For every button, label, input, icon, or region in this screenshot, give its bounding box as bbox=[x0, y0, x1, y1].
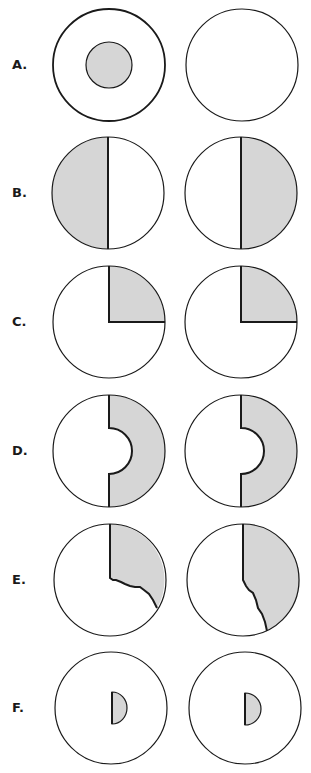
row-f-left-diagram bbox=[55, 652, 167, 764]
row-f-right-diagram bbox=[189, 652, 301, 764]
row-c-label: C. bbox=[12, 314, 26, 329]
row-a-label: A. bbox=[12, 57, 27, 72]
row-c-left-diagram bbox=[53, 266, 165, 378]
row-e-label: E. bbox=[12, 572, 26, 587]
row-b-label: B. bbox=[12, 185, 27, 200]
row-e-right-diagram bbox=[187, 524, 300, 636]
row-f-label: F. bbox=[12, 700, 24, 715]
row-d-left-diagram bbox=[53, 395, 165, 507]
row-b-right-diagram bbox=[185, 137, 297, 249]
row-c-right-diagram bbox=[185, 266, 297, 378]
row-e-left-diagram bbox=[54, 524, 166, 636]
row-a-left-diagram bbox=[53, 9, 165, 121]
row-a-right-diagram bbox=[186, 9, 298, 121]
row-b-left-diagram bbox=[52, 137, 164, 249]
row-d-label: D. bbox=[12, 443, 28, 458]
figure-canvas bbox=[0, 0, 311, 773]
row-d-right-diagram bbox=[185, 395, 297, 507]
